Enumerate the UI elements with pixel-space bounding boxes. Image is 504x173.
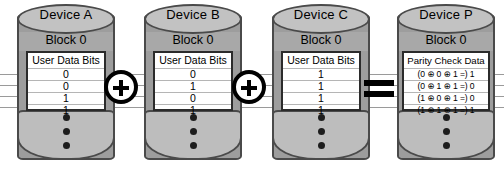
device-name-label: Device B [144,7,242,22]
dot-icon [63,128,70,135]
dot-icon [443,142,450,149]
data-row: 1 [283,92,359,104]
dot-icon [318,128,325,135]
dot-icon [63,142,70,149]
ellipsis-dots [144,114,242,156]
data-row: 1 [28,92,104,104]
data-box: User Data Bits 0 1 0 1 [153,51,233,111]
dot-icon [318,142,325,149]
ellipsis-dots [17,114,115,156]
dot-icon [190,128,197,135]
parity-row: (0 ⊕ 1 ⊕ 1 =) 0 [404,80,488,92]
dot-icon [318,114,325,121]
device-name-label: Device C [272,7,370,22]
xor-icon [232,70,266,104]
dot-icon [443,114,450,121]
data-box-header: User Data Bits [283,53,359,68]
ellipsis-dots [397,114,495,156]
raid-parity-diagram: Device A Block 0 User Data Bits 0 0 1 1 … [0,0,504,173]
dot-icon [63,114,70,121]
xor-operator-a-b [104,70,138,104]
data-row: 1 [283,80,359,92]
block-label: Block 0 [272,33,370,47]
equals-icon [364,76,394,100]
data-row: 0 [155,68,231,80]
device-c: Device C Block 0 User Data Bits 1 1 1 1 [268,2,374,170]
data-row: 0 [28,80,104,92]
equals-operator [364,76,394,100]
data-box: Parity Check Data (0 ⊕ 0 ⊕ 1 =) 1 (0 ⊕ 1… [402,51,490,111]
parity-row: (1 ⊕ 0 ⊕ 1 =) 0 [404,92,488,104]
data-box: User Data Bits 0 0 1 1 [26,51,106,111]
dot-icon [443,128,450,135]
dot-icon [190,142,197,149]
dot-icon [190,114,197,121]
data-box-header: User Data Bits [28,53,104,68]
xor-operator-b-c [232,70,266,104]
data-box-header: Parity Check Data [404,53,488,68]
parity-row: (0 ⊕ 0 ⊕ 1 =) 1 [404,68,488,80]
block-label: Block 0 [144,33,242,47]
device-name-label: Device P [397,7,495,22]
data-row: 1 [155,80,231,92]
data-row: 0 [28,68,104,80]
data-row: 1 [283,68,359,80]
data-row: 0 [155,92,231,104]
data-box-header: User Data Bits [155,53,231,68]
device-p: Device P Block 0 Parity Check Data (0 ⊕ … [393,2,499,170]
data-box: User Data Bits 1 1 1 1 [281,51,361,111]
block-label: Block 0 [17,33,115,47]
device-name-label: Device A [17,7,115,22]
device-b: Device B Block 0 User Data Bits 0 1 0 1 [140,2,246,170]
block-label: Block 0 [397,33,495,47]
xor-icon [104,70,138,104]
ellipsis-dots [272,114,370,156]
